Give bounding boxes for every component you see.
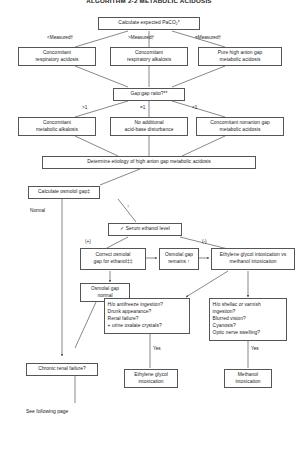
question-line-3: + urine oxalate crystals? <box>108 323 162 330</box>
node-methanol-intoxication[interactable]: Methanol intoxication <box>224 369 272 388</box>
node-concomitant-metabolic-alkalosis[interactable]: Concomitant metabolic alkalosis <box>18 117 96 136</box>
node-label: ✓ Serum ethanol level <box>120 226 170 233</box>
node-label: Calculate osmolol gap‡ <box>38 189 90 196</box>
node-label-line-0: Concomitant <box>43 120 71 127</box>
edge-label-yes-ethylene-glycol: Yes <box>153 347 161 352</box>
node-concomitant-respiratory-acidosis[interactable]: Concomitant respiratory acidosis <box>18 47 96 66</box>
node-serum-ethanol-level[interactable]: ✓ Serum ethanol level <box>108 223 182 236</box>
node-label-line-0: Ethylene glycol <box>134 372 168 379</box>
node-label-line-0: No additional <box>134 120 163 127</box>
node-label-line-0: Pure high anion gap <box>218 50 263 57</box>
edge-label-normal: Normal <box>30 209 45 214</box>
node-ethylene-glycol-intoxication[interactable]: Ethylene glycol intoxication <box>124 369 178 388</box>
node-no-additional-acid-base-disturbance[interactable]: No additional acid-base disturbance <box>110 117 188 136</box>
question-line-2: Blurred vision? <box>213 316 246 323</box>
edge-label-equal-measured: =Measured† <box>195 36 221 41</box>
edge-label-greater-than-one: >1 <box>82 106 87 111</box>
node-calculate-expected-paco2[interactable]: Calculate expected PaCO₂* <box>98 17 200 30</box>
question-line-1: Drunk appearance? <box>108 309 152 316</box>
question-line-0: H/o shellac or varnish <box>213 302 261 309</box>
node-concomitant-nonanion-gap-metabolic-acidosis[interactable]: Concomitant nonanion gap metabolic acido… <box>196 117 284 136</box>
node-ethylene-glycol-questions[interactable]: H/o antifreeze ingestion? Drunk appearan… <box>104 298 190 334</box>
edge-label-less-than-one: <1 <box>192 106 197 111</box>
node-methanol-questions[interactable]: H/o shellac or varnish ingestion? Blurre… <box>209 298 287 341</box>
edge-label-negative: (-) <box>202 240 207 245</box>
node-label-line-1: respiratory acidosis <box>35 57 78 64</box>
node-label-line-1: respiratory alkalosis <box>127 57 171 64</box>
question-line-2: Renal failure? <box>108 316 139 323</box>
edge-label-positive: (+) <box>85 240 91 245</box>
node-label: Determine etiology of high anion gap met… <box>87 159 211 166</box>
node-label-line-1: metabolic acidosis <box>220 57 261 64</box>
edge-label-elevated-osmolal-gap: ↑ <box>127 205 129 210</box>
node-label-line-1: methanol intoxication <box>230 259 277 266</box>
node-gap-gap-ratio[interactable]: Gap:gap ratio?** <box>113 88 185 101</box>
node-label-line-0: Ethylene glycol intoxication vs <box>220 252 287 259</box>
node-label-line-1: intoxication <box>235 379 260 386</box>
node-label-line-0: Concomitant <box>43 50 71 57</box>
question-line-0: H/o antifreeze ingestion? <box>108 302 163 309</box>
node-label-line-0: Concomitant <box>135 50 163 57</box>
node-label-line-0: Osmolal gap <box>91 286 119 293</box>
edge-label-yes-methanol: Yes <box>251 347 259 352</box>
node-chronic-renal-failure[interactable]: Chronic renal failure? <box>26 363 98 376</box>
page-title: ALGORITHM 2-2 METABOLIC ACIDOSIS <box>0 0 298 4</box>
edge-label-greater-measured: >Measured† <box>128 36 154 41</box>
edge-label-equal-one: =1 <box>140 106 145 111</box>
node-label-line-0: Methanol <box>238 372 259 379</box>
question-line-3: Cyanosis? <box>213 323 236 330</box>
flowchart-canvas: ALGORITHM 2-2 METABOLIC ACIDOSIS <box>0 0 298 455</box>
node-label-line-0: Osmolal gap <box>165 252 193 259</box>
node-label-line-1: metabolic alkalosis <box>36 127 78 134</box>
node-osmolal-gap-remains[interactable]: Osmolal gap remains ↑ <box>159 248 199 270</box>
node-label-line-0: Correct osmolal <box>96 252 131 259</box>
node-pure-high-anion-gap-metabolic-acidosis[interactable]: Pure high anion gap metabolic acidosis <box>198 47 282 66</box>
node-label-line-0: Concomitant nonanion gap <box>210 120 270 127</box>
node-label: Calculate expected PaCO₂* <box>118 20 179 27</box>
edge-label-less-measured: <Measured† <box>47 36 73 41</box>
node-concomitant-respiratory-alkalosis[interactable]: Concomitant respiratory alkalosis <box>110 47 188 66</box>
question-line-4: Optic nerve swelling? <box>213 330 261 337</box>
node-label: Chronic renal failure? <box>38 366 86 373</box>
node-label-line-1: intoxication <box>138 379 163 386</box>
node-determine-etiology[interactable]: Determine etiology of high anion gap met… <box>42 156 256 169</box>
node-label: Gap:gap ratio?** <box>131 91 168 98</box>
see-following-page-text: See following page <box>26 409 68 414</box>
node-ethylene-glycol-vs-methanol-intoxication[interactable]: Ethylene glycol intoxication vs methanol… <box>211 248 295 270</box>
node-calculate-osmolal-gap[interactable]: Calculate osmolol gap‡ <box>28 186 100 199</box>
node-label-line-1: metabolic acidosis <box>220 127 261 134</box>
node-label-line-1: gap for ethanol‡‡ <box>94 259 133 266</box>
node-label-line-1: remains ↑ <box>168 259 190 266</box>
node-label-line-1: acid-base disturbance <box>125 127 174 134</box>
node-correct-osmolal-gap-for-ethanol[interactable]: Correct osmolal gap for ethanol‡‡ <box>80 248 146 270</box>
question-line-1: ingestion? <box>213 309 236 316</box>
